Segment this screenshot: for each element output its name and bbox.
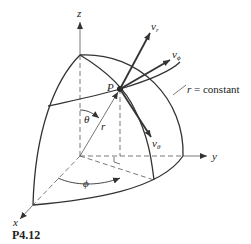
surface-leader-line	[173, 85, 186, 95]
v-theta-vector	[120, 89, 151, 137]
spherical-coordinates-diagram: z y x P θ ϕ r vr vϕ vθ r = constant P4.1…	[0, 0, 251, 244]
radius-label: r	[101, 120, 106, 132]
z-axis-label: z	[76, 7, 82, 19]
construction-lines	[80, 89, 154, 180]
velocity-vectors	[120, 33, 170, 137]
sphere-octant	[33, 55, 183, 205]
figure-caption: P4.12	[12, 228, 40, 242]
equator-arc	[33, 156, 183, 205]
theta-arc	[80, 110, 99, 118]
v-r-label: vr	[151, 20, 159, 34]
phi-arc	[58, 178, 120, 184]
theta-label: θ	[84, 113, 90, 125]
v-theta-label: vθ	[152, 137, 161, 151]
right-angle-mark	[114, 157, 120, 164]
surface-label: r = constant	[187, 83, 240, 95]
y-axis-label: y	[211, 150, 217, 162]
point-P-label: P	[106, 81, 114, 93]
x-axis-label: x	[12, 216, 18, 228]
x-axis	[20, 156, 80, 219]
phi-label: ϕ	[83, 177, 89, 189]
v-phi-label: vϕ	[172, 48, 181, 62]
